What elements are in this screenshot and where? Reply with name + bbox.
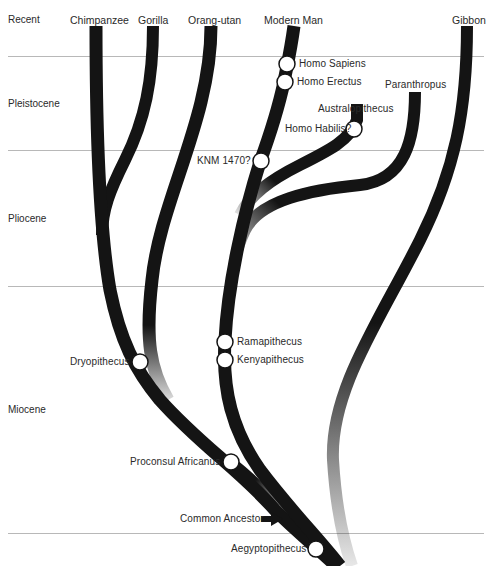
fossil-label-dryopithecus: Dryopithecus [70,356,130,368]
fossil-label-proconsul-africanus: Proconsul Africanus [130,456,220,468]
node-homo-erectus[interactable] [277,74,293,90]
species-label-gibbon: Gibbon [452,14,486,26]
epoch-label-pliocene: Pliocene [8,213,46,225]
branch-gorilla [102,26,153,235]
fossil-label-paranthropus: Paranthropus [385,79,446,91]
node-proconsul-africanus[interactable] [223,454,239,470]
species-label-gorilla: Gorilla [138,14,168,26]
fossil-label-ramapithecus: Ramapithecus [237,336,302,348]
fossil-label-common-ancestor: Common Ancestor [180,513,264,525]
fossil-label-homo-habilis: Homo Habilis? [285,123,351,135]
species-label-chimpanzee: Chimpanzee [70,14,129,26]
epoch-label-pleistocene: Pleistocene [8,98,60,110]
fossil-label-homo-sapiens: Homo Sapiens [299,58,366,70]
branch-orangutan [149,26,211,400]
fossil-label-homo-erectus: Homo Erectus [297,76,362,88]
node-kenyapithecus[interactable] [217,352,233,368]
node-ramapithecus[interactable] [217,334,233,350]
fossil-label-kenyapithecus: Kenyapithecus [237,354,304,366]
node-dryopithecus[interactable] [132,354,148,370]
species-label-modern-man: Modern Man [264,14,323,26]
species-label-orangutan: Orang-utan [188,14,241,26]
fossil-label-aegyptopithecus: Aegyptopithecus [231,543,306,555]
epoch-label-miocene: Miocene [8,404,46,416]
node-aegyptopithecus[interactable] [308,541,324,557]
fossil-label-knm-1470: KNM 1470? [197,155,251,167]
node-homo-sapiens[interactable] [279,56,295,72]
epoch-label-recent: Recent [8,14,40,26]
node-knm-1470[interactable] [253,153,269,169]
branch-chimpanzee [96,26,336,566]
fossil-label-australopithecus: Australopithecus [318,103,394,115]
